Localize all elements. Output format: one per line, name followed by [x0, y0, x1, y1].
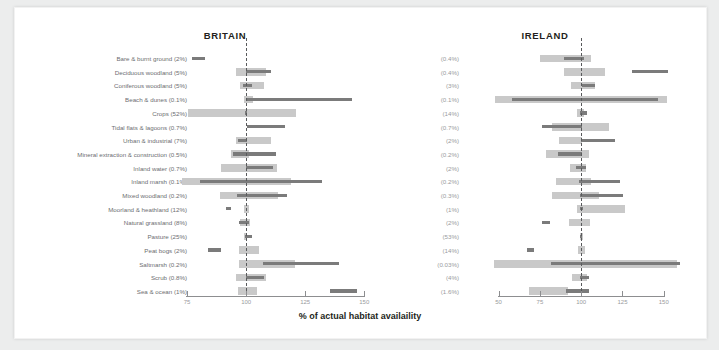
availability-label-ireland: (4%) [415, 271, 459, 284]
category-label: Deciduous woodland (5%) [35, 66, 187, 79]
availability-label-ireland: (0.3%) [415, 189, 459, 202]
availability-label-ireland: (2%) [415, 216, 459, 229]
chart-row: Mixed woodland (0.2%)(0.3%) [15, 189, 706, 202]
x-axis-tick [246, 291, 247, 296]
range-band [238, 287, 257, 295]
availability-label-ireland: (2%) [415, 162, 459, 175]
reference-line-100 [581, 38, 582, 296]
median-bar [246, 166, 273, 169]
range-band [564, 68, 605, 76]
chart-rows: Bare & burnt ground (2%)(0.4%)Deciduous … [15, 8, 706, 298]
range-band [239, 246, 259, 254]
category-label: Mineral extraction & construction (0.5%) [35, 148, 187, 161]
chart-row: Moorland & heathland (12%)(1%) [15, 203, 706, 216]
x-axis-tick [581, 291, 582, 296]
x-axis-tick-label: 50 [484, 299, 514, 305]
range-band [569, 219, 590, 227]
median-bar [558, 152, 582, 155]
availability-label-ireland: (0.03%) [415, 258, 459, 271]
median-bar [330, 289, 357, 292]
availability-label-ireland: (14%) [415, 107, 459, 120]
chart-row: Peat bogs (2%)(14%) [15, 244, 706, 257]
median-bar [263, 262, 340, 265]
chart-row: Deciduous woodland (5%)(0.4%) [15, 66, 706, 79]
category-label: Mixed woodland (0.2%) [35, 189, 187, 202]
x-axis-tick-label: 150 [649, 299, 679, 305]
availability-label-ireland: (0.1%) [415, 93, 459, 106]
category-label: Inland water (0.7%) [35, 162, 187, 175]
x-axis-tick [622, 291, 623, 296]
median-bar [551, 262, 681, 265]
chart-row: Scrub (0.8%)(4%) [15, 271, 706, 284]
category-label: Inland marsh (0.1%) [35, 175, 187, 188]
median-bar [200, 180, 322, 183]
median-bar [542, 125, 582, 128]
category-label: Tidal flats & lagoons (0.7%) [35, 121, 187, 134]
chart-row: Natural grassland (8%)(2%) [15, 216, 706, 229]
x-axis-line [186, 296, 365, 297]
median-bar [512, 98, 658, 101]
availability-label-ireland: (0.4%) [415, 66, 459, 79]
chart-row: Pasture (25%)(53%) [15, 230, 706, 243]
chart-row: Urban & industrial (7%)(2%) [15, 134, 706, 147]
figure-card: BRITAIN IRELAND Bare & burnt ground (2%)… [14, 7, 707, 339]
availability-label-ireland: (1.6%) [415, 285, 459, 298]
availability-label-ireland: (0.2%) [415, 148, 459, 161]
median-bar [233, 152, 276, 155]
category-label: Coniferous woodland (5%) [35, 79, 187, 92]
range-band [188, 109, 295, 117]
median-bar [237, 194, 288, 197]
median-bar [632, 70, 668, 73]
category-label: Pasture (25%) [35, 230, 187, 243]
chart-row: Mineral extraction & construction (0.5%)… [15, 148, 706, 161]
x-axis-tick-label: 125 [290, 299, 320, 305]
chart-row: Saltmarsh (0.2%)(0.03%) [15, 258, 706, 271]
range-band [529, 287, 568, 295]
median-bar [247, 125, 285, 128]
median-bar [246, 70, 271, 73]
range-band [577, 205, 625, 213]
median-bar [208, 248, 221, 251]
chart-row: Beach & dunes (0.1%)(0.1%) [15, 93, 706, 106]
reference-line-100 [246, 38, 247, 296]
x-axis-tick [664, 291, 665, 296]
x-axis-tick [187, 291, 188, 296]
availability-label-ireland: (1%) [415, 203, 459, 216]
availability-label-ireland: (14%) [415, 244, 459, 257]
median-bar [246, 276, 264, 279]
category-label: Moorland & heathland (12%) [35, 203, 187, 216]
category-label: Scrub (0.8%) [35, 271, 187, 284]
category-label: Urban & industrial (7%) [35, 134, 187, 147]
range-band [559, 137, 582, 145]
chart-row: Tidal flats & lagoons (0.7%)(0.7%) [15, 121, 706, 134]
median-bar [580, 194, 624, 197]
median-bar [542, 221, 549, 224]
median-bar [566, 289, 590, 292]
x-axis-tick-label: 150 [349, 299, 379, 305]
category-label: Natural grassland (8%) [35, 216, 187, 229]
availability-label-ireland: (0.2%) [415, 175, 459, 188]
category-label: Saltmarsh (0.2%) [35, 258, 187, 271]
median-bar [246, 98, 352, 101]
median-bar [243, 84, 252, 87]
category-label: Beach & dunes (0.1%) [35, 93, 187, 106]
chart-row: Coniferous woodland (5%)(3%) [15, 79, 706, 92]
availability-label-ireland: (0.7%) [415, 121, 459, 134]
x-axis-tick [364, 291, 365, 296]
availability-label-ireland: (2%) [415, 134, 459, 147]
category-label: Sea & ocean (1%) [35, 285, 187, 298]
availability-label-ireland: (3%) [415, 79, 459, 92]
x-axis-tick-label: 125 [607, 299, 637, 305]
median-bar [192, 57, 205, 60]
category-label: Bare & burnt ground (2%) [35, 52, 187, 65]
median-bar [226, 207, 231, 210]
availability-label-ireland: (0.4%) [415, 52, 459, 65]
x-axis-tick-label: 75 [172, 299, 202, 305]
x-axis-title: % of actual habitat availaility [200, 311, 520, 321]
x-axis-tick-label: 100 [231, 299, 261, 305]
chart-row: Crops (52%)(14%) [15, 107, 706, 120]
median-bar [579, 180, 620, 183]
x-axis-tick-label: 100 [566, 299, 596, 305]
x-axis-line [498, 296, 665, 297]
chart-row: Inland water (0.7%)(2%) [15, 162, 706, 175]
